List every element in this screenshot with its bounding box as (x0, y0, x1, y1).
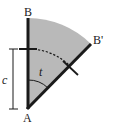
shaded-sector (28, 18, 91, 108)
label-b: B (24, 5, 32, 19)
sector-diagram: B B' A c t (0, 0, 113, 125)
label-c: c (2, 73, 8, 87)
label-a: A (23, 111, 32, 125)
label-b-prime: B' (93, 33, 103, 47)
